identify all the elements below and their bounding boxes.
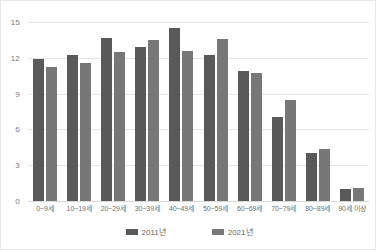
bar-2011년-70~79세 (272, 117, 283, 201)
x-tick-label: 0~9세 (28, 203, 62, 219)
bar-2021년-20~29세 (114, 52, 125, 201)
x-axis: 0~9세10~19세20~29세30~39세40~49세50~59세60~69세… (28, 203, 369, 219)
bar-2011년-40~49세 (169, 28, 180, 201)
bar-2011년-90세 이상 (340, 189, 351, 201)
x-tick-label: 70~79세 (267, 203, 301, 219)
x-tick-label: 90세 이상 (335, 203, 369, 219)
bar-group (233, 22, 267, 201)
x-tick-label: 10~19세 (62, 203, 96, 219)
x-tick-label: 60~69세 (233, 203, 267, 219)
y-tick-label: 12 (11, 53, 20, 62)
bar-group (28, 22, 62, 201)
bar-2011년-80~89세 (306, 153, 317, 201)
x-tick-label: 30~39세 (130, 203, 164, 219)
bar-group (335, 22, 369, 201)
bar-2021년-0~9세 (46, 67, 57, 201)
bar-group (164, 22, 198, 201)
bar-group (96, 22, 130, 201)
bar-2021년-60~69세 (251, 73, 262, 201)
chart-legend: 2011년2021년 (1, 226, 377, 237)
y-tick-label: 6 (15, 125, 20, 134)
bar-group (267, 22, 301, 201)
legend-label: 2011년 (142, 226, 166, 237)
bar-2021년-40~49세 (182, 51, 193, 201)
bar-2011년-0~9세 (33, 59, 44, 201)
bar-2011년-60~69세 (238, 71, 249, 201)
x-tick-label: 80~89세 (301, 203, 335, 219)
y-axis: 03691215 (1, 22, 25, 201)
bar-2021년-70~79세 (285, 100, 296, 201)
y-tick-label: 3 (15, 161, 20, 170)
bar-2021년-30~39세 (148, 40, 159, 201)
bar-2021년-10~19세 (80, 63, 91, 201)
legend-item-2021년[interactable]: 2021년 (212, 226, 253, 237)
y-tick-label: 15 (11, 18, 20, 27)
x-tick-label: 40~49세 (164, 203, 198, 219)
legend-item-2011년[interactable]: 2011년 (126, 226, 166, 237)
bar-2011년-30~39세 (135, 47, 146, 201)
bar-group (130, 22, 164, 201)
bar-2011년-50~59세 (204, 55, 215, 201)
legend-label: 2021년 (228, 226, 253, 237)
plot-area (28, 22, 369, 201)
bar-chart: 03691215 0~9세10~19세20~29세30~39세40~49세50~… (0, 0, 376, 250)
legend-swatch-icon (212, 229, 224, 235)
bar-group (301, 22, 335, 201)
bar-2021년-80~89세 (319, 149, 330, 201)
legend-swatch-icon (126, 229, 138, 235)
bar-2021년-50~59세 (217, 39, 228, 201)
y-tick-label: 0 (15, 197, 20, 206)
x-tick-label: 20~29세 (96, 203, 130, 219)
bar-group (62, 22, 96, 201)
bar-group (198, 22, 232, 201)
bar-2011년-20~29세 (101, 38, 112, 201)
bar-2011년-10~19세 (67, 55, 78, 201)
x-tick-label: 50~59세 (198, 203, 232, 219)
bar-2021년-90세 이상 (353, 188, 364, 201)
gridline-0 (28, 201, 369, 202)
y-tick-label: 9 (15, 89, 20, 98)
bars-layer (28, 22, 369, 201)
